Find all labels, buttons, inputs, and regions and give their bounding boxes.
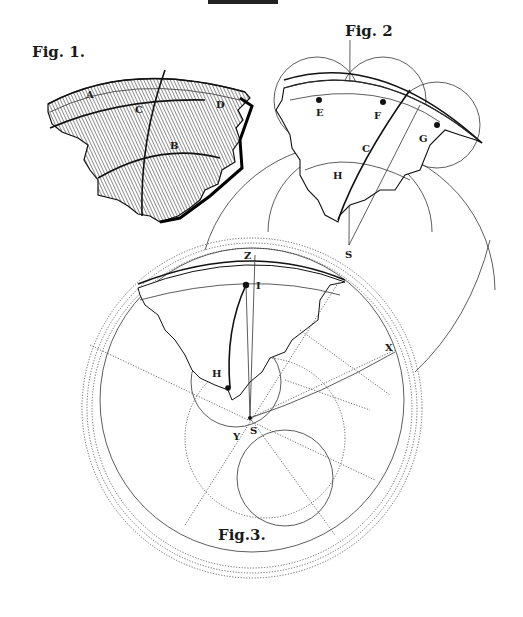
fig3-label-Z: Z	[244, 250, 251, 261]
fig2-point-G	[434, 122, 440, 128]
fig3-label-Y: Y	[232, 431, 241, 442]
fig3-curve-SX	[250, 352, 395, 418]
fig3-point-I	[243, 282, 249, 288]
figure-3: Z I X H S Y Fig.3.	[82, 238, 490, 578]
fig1-label-D: D	[216, 99, 225, 110]
fig2-label-G: G	[419, 133, 428, 144]
plate-canvas: Fig. 1. A C D B Fig. 2 E F G C H	[0, 0, 523, 617]
plate-header-fragment	[208, 0, 278, 4]
fig2-point-F	[380, 99, 386, 105]
fig3-line-SX	[250, 350, 395, 418]
fig1-label-C: C	[135, 104, 143, 115]
fig2-label-C: C	[362, 143, 370, 154]
figure-1: Fig. 1. A C D B	[32, 43, 252, 222]
fig1-caption: Fig. 1.	[32, 43, 85, 61]
fig3-caption: Fig.3.	[218, 526, 266, 544]
fig1-label-A: A	[85, 89, 94, 100]
fig3-point-S	[248, 416, 252, 420]
fig2-fragment	[276, 80, 482, 222]
fig2-point-E	[316, 97, 322, 103]
fig3-dotted-line-5	[285, 380, 370, 410]
fig2-label-H: H	[333, 170, 342, 181]
fig2-caption: Fig. 2	[345, 22, 393, 40]
fig3-lower-circle	[237, 430, 333, 526]
fig3-label-S: S	[250, 425, 257, 436]
fig2-label-E: E	[316, 107, 324, 118]
fig3-fragment	[138, 265, 345, 400]
fig2-large-arc-continuation	[415, 240, 490, 372]
fig3-label-I: I	[256, 280, 261, 291]
fig3-label-H: H	[212, 368, 221, 379]
fig1-label-B: B	[170, 140, 178, 151]
fig2-label-S: S	[345, 249, 352, 260]
fig2-label-F: F	[374, 110, 381, 121]
fig3-point-H	[225, 385, 231, 391]
fig3-label-X: X	[385, 342, 393, 353]
